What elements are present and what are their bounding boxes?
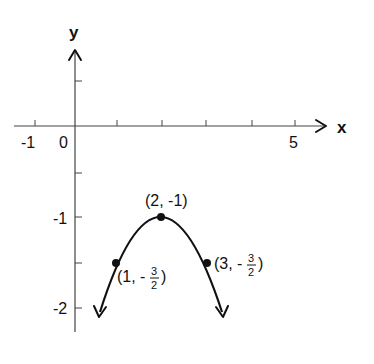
point-right xyxy=(203,259,211,267)
x-axis: x -1 0 5 xyxy=(14,118,347,151)
svg-text:2: 2 xyxy=(248,266,254,278)
parabola-curve xyxy=(94,217,228,317)
vertex-label: (2, -1) xyxy=(145,192,188,209)
point-vertex xyxy=(157,213,165,221)
x-tick-label-0: 0 xyxy=(59,134,68,151)
x-tick-label-neg1: -1 xyxy=(21,134,35,151)
y-tick-label-neg2: -2 xyxy=(53,300,67,317)
svg-text:3: 3 xyxy=(248,252,254,264)
svg-text:): ) xyxy=(161,268,166,285)
y-tick-label-neg1: -1 xyxy=(53,210,67,227)
svg-text:3: 3 xyxy=(151,265,157,277)
parabola-graph: x -1 0 5 y -1 -2 (2, -1) (1, - 3 2 ) (3,… xyxy=(0,0,374,364)
left-point-label: (1, - 3 2 ) xyxy=(117,265,166,291)
x-axis-label: x xyxy=(337,118,347,137)
point-left xyxy=(112,259,120,267)
y-axis-label: y xyxy=(69,23,79,42)
y-axis: y -1 -2 xyxy=(53,23,82,332)
right-point-label: (3, - 3 2 ) xyxy=(214,252,263,278)
svg-text:(1, -: (1, - xyxy=(117,268,145,285)
svg-text:(3, -: (3, - xyxy=(214,255,242,272)
x-tick-label-5: 5 xyxy=(289,134,298,151)
svg-text:2: 2 xyxy=(151,279,157,291)
svg-text:): ) xyxy=(258,255,263,272)
